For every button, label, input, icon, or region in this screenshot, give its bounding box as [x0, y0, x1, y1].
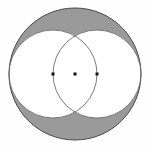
geometry-figure-canvas — [0, 0, 148, 152]
right-center-point — [96, 73, 99, 76]
left-center-point — [52, 73, 55, 76]
figure-center-point — [74, 73, 77, 76]
geometry-figure-svg — [0, 0, 148, 152]
